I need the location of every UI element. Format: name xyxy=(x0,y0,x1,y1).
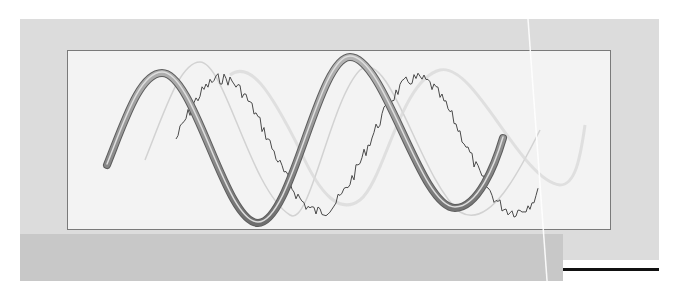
ghost-sine-wave xyxy=(145,62,585,216)
wave-illustration xyxy=(0,0,677,294)
tube-sine-wave xyxy=(107,56,503,223)
white-streak xyxy=(528,19,548,294)
